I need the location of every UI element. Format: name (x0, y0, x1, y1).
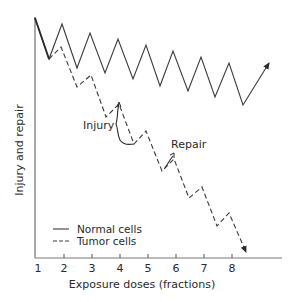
injury-brace-icon (116, 104, 134, 145)
x-tick-labels: 1 2 3 4 5 6 7 8 (35, 262, 236, 275)
x-tick-label: 5 (145, 262, 152, 275)
legend-label-tumor: Tumor cells (76, 235, 136, 247)
x-tick-label: 1 (35, 262, 42, 275)
repair-annotation: Repair (165, 138, 207, 168)
y-axis-title: Injury and repair (13, 104, 26, 196)
legend: Normal cells Tumor cells (53, 223, 142, 247)
series-normal-cells (35, 18, 269, 105)
injury-label: Injury (83, 119, 115, 132)
series-normal-first-segment (35, 18, 49, 59)
x-tick-label: 7 (201, 262, 208, 275)
x-tick-label: 6 (173, 262, 180, 275)
x-tick-label: 3 (89, 262, 96, 275)
x-tick-label: 4 (117, 262, 124, 275)
x-tick-label: 2 (61, 262, 68, 275)
x-axis-title: Exposure doses (fractions) (69, 278, 215, 291)
x-tick-label: 8 (229, 262, 236, 275)
repair-arrow-icon (165, 156, 173, 168)
series-tumor-cells (49, 47, 246, 252)
x-ticks (64, 254, 232, 258)
chart: 1 2 3 4 5 6 7 8 Exposure doses (fraction… (0, 0, 296, 302)
legend-label-normal: Normal cells (77, 223, 142, 235)
repair-label: Repair (171, 138, 207, 151)
